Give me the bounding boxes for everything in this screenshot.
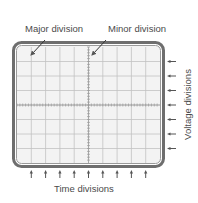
time-division-arrow — [101, 170, 104, 178]
voltage-division-arrow — [167, 74, 176, 77]
time-division-arrow — [116, 170, 119, 178]
major-division-label: Major division — [25, 23, 83, 34]
minor-division-label: Minor division — [108, 23, 166, 34]
time-division-arrow — [144, 170, 147, 178]
time-division-arrow — [58, 170, 61, 178]
time-division-arrows — [30, 170, 148, 178]
voltage-division-arrow — [167, 118, 176, 121]
voltage-division-arrow — [167, 103, 176, 106]
time-division-arrow — [73, 170, 76, 178]
time-divisions-label: Time divisions — [54, 183, 114, 194]
voltage-division-arrow — [167, 132, 176, 135]
time-division-arrow — [30, 170, 33, 178]
voltage-division-arrow — [167, 60, 176, 63]
voltage-division-arrow — [167, 89, 176, 92]
time-division-arrow — [87, 170, 90, 178]
time-division-arrow — [44, 170, 47, 178]
voltage-divisions-label: Voltage divisions — [182, 65, 193, 145]
voltage-division-arrows — [167, 60, 176, 150]
time-division-arrow — [130, 170, 133, 178]
voltage-division-arrow — [167, 147, 176, 150]
